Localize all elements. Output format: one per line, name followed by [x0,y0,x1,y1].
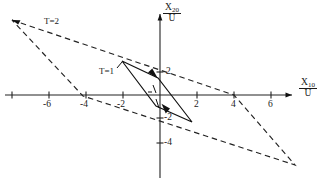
t1-leader-line [117,62,122,68]
x-tick-label-neg6: -6 [43,100,51,110]
x-axis-label-denominator: U [299,88,317,99]
t1-leader [117,62,122,68]
y-tick-label-neg2: -2 [164,113,172,123]
x-axis-label: X10 U [299,78,317,99]
x-tick-label-pos6: 6 [268,100,273,110]
x-axis [5,92,292,99]
x-axis-label-numerator: X10 [299,78,317,88]
t2-arrow-icon [12,20,21,25]
t2-parallelogram-path [12,20,295,165]
construction-mark [153,85,156,93]
curve-t1-solid [122,61,192,122]
x-tick-label-neg4: -4 [80,100,88,110]
curve-label-t2: T=2 [44,17,59,26]
x-tick-label-pos4: 4 [231,100,236,110]
y-axis-label-denominator: U [163,13,181,24]
x-tick-label-pos2: 2 [194,100,199,110]
plot-canvas [0,0,328,183]
plot-figure: X20 U X10 U -6 -4 -2 2 4 6 2 -2 -4 T=2 T… [0,0,328,183]
curve-t2-dashed [12,20,295,165]
y-axis [157,14,164,178]
y-axis-arrow-icon [158,14,163,21]
x-tick-label-neg2: -2 [117,100,125,110]
y-tick-label-neg4: -4 [164,138,172,148]
y-axis-label-numerator: X20 [163,3,181,13]
t1-parallelogram-path [122,61,192,122]
y-tick-label-pos2: 2 [166,67,171,77]
x-axis-arrow-icon [286,93,293,98]
origin-construction-marks [148,85,159,108]
y-axis-label: X20 U [163,3,181,24]
curve-label-t1: T=1 [99,67,114,76]
